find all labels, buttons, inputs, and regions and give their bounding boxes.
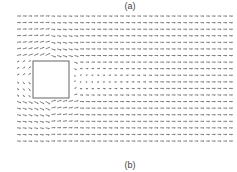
subplot-label-b: (b) xyxy=(125,160,136,170)
square-obstacle xyxy=(33,61,69,98)
vector-field-plot xyxy=(0,0,237,172)
